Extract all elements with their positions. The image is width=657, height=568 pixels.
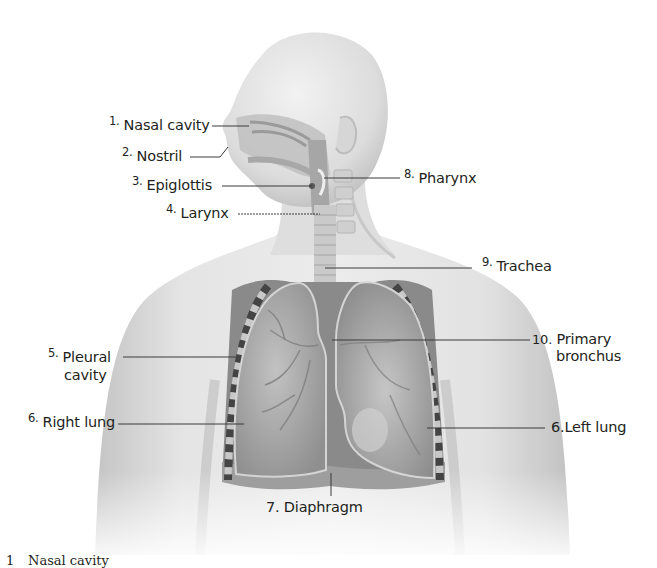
label-text: Epiglottis (147, 177, 212, 193)
label-text: Larynx (181, 205, 229, 221)
label-number: 8. (404, 167, 415, 181)
label-number: 6. (551, 419, 564, 435)
label-text: Left lung (564, 419, 626, 435)
footer-item-number: 1 (6, 553, 28, 568)
label-text: Diaphragm (284, 499, 363, 515)
label-number: 4. (166, 202, 177, 216)
leader-nostril (190, 147, 228, 157)
label-text: Right lung (43, 414, 115, 430)
label-text: Primary (557, 331, 612, 347)
label-epiglottis: 3.Epiglottis (132, 177, 212, 195)
footer-list-item: 1Nasal cavity (6, 553, 109, 568)
label-text-line2: bronchus (532, 348, 621, 364)
label-number: 9. (482, 255, 493, 269)
label-pleural-cavity: 5.Pleural cavity (48, 349, 111, 384)
label-number: 2. (122, 145, 133, 159)
label-number: 5. (48, 346, 59, 360)
label-trachea: 9.Trachea (482, 258, 552, 276)
label-number: 10. (532, 332, 552, 347)
label-text: Nasal cavity (124, 117, 210, 133)
label-text: Nostril (137, 148, 183, 164)
label-number: 6. (28, 411, 39, 425)
label-nasal-cavity: 1.Nasal cavity (109, 117, 210, 135)
footer-item-text: Nasal cavity (28, 553, 109, 568)
label-right-lung: 6.Right lung (28, 414, 115, 432)
label-primary-bronchus: 10. Primary bronchus (532, 331, 621, 365)
label-text: Pharynx (419, 170, 477, 186)
label-pharynx: 8.Pharynx (404, 170, 476, 188)
label-text-line2: cavity (48, 367, 107, 383)
label-diaphragm: 7. Diaphragm (266, 499, 363, 516)
label-text: Pleural (63, 349, 111, 365)
label-number: 1. (109, 114, 120, 128)
label-larynx: 4.Larynx (166, 205, 229, 223)
label-text: Trachea (497, 258, 552, 274)
label-left-lung: 6.Left lung (551, 419, 626, 436)
label-nostril: 2.Nostril (122, 148, 182, 166)
label-number: 7. (266, 499, 279, 515)
label-number: 3. (132, 174, 143, 188)
